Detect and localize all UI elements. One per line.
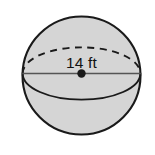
sphere-diagram-canvas: 14 ft <box>0 0 155 155</box>
diameter-label: 14 ft <box>66 54 98 71</box>
sphere-figure: 14 ft <box>0 0 155 155</box>
